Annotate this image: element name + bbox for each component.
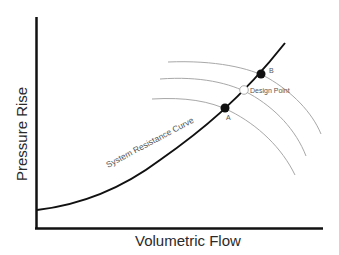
y-axis-label: Pressure Rise <box>13 87 30 181</box>
point-a-label: A <box>226 114 231 121</box>
point-b-marker <box>257 70 266 79</box>
fan-system-diagram: System Resistance Curve A Design Point B… <box>0 0 339 255</box>
x-axis-label: Volumetric Flow <box>135 232 241 249</box>
point-b-label: B <box>269 67 274 74</box>
design-point-label: Design Point <box>250 87 290 95</box>
system-resistance-curve <box>37 43 285 210</box>
system-curve-label: System Resistance Curve <box>104 115 195 170</box>
design-point-marker <box>240 86 249 95</box>
point-a-marker <box>221 104 230 113</box>
